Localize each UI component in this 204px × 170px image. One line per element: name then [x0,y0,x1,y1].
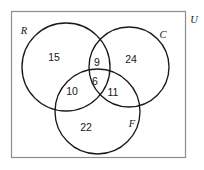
region-count-f-only: 22 [80,121,92,133]
circle-set-c [89,27,169,107]
region-count-c-and-f: 11 [108,86,119,98]
set-label-c: C [159,29,167,40]
region-count-c-only: 24 [125,53,137,65]
region-count-r-and-f: 10 [66,85,78,97]
region-count-r-and-c: 9 [94,56,100,68]
set-label-f: F [128,118,136,129]
region-count-r-c-f: 6 [92,75,98,87]
set-label-r: R [20,25,28,36]
region-count-r-only: 15 [48,51,60,63]
venn-diagram-canvas: R C F U 15 24 22 9 10 11 6 [0,0,204,170]
universe-label-u: U [190,14,199,25]
venn-diagram: R C F U 15 24 22 9 10 11 6 [0,0,204,170]
